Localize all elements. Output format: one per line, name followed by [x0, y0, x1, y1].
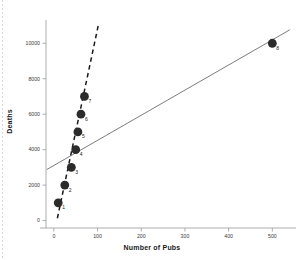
y-tick-label-8000: 8000 — [0, 76, 40, 82]
data-point-label-1: 1 — [62, 204, 65, 210]
data-point-label-6: 6 — [85, 116, 88, 122]
y-tick-label-10000: 10000 — [0, 40, 40, 46]
data-point-label-3: 3 — [75, 169, 78, 175]
data-point-label-4: 4 — [80, 151, 83, 157]
y-axis-title: Deaths — [6, 100, 13, 144]
y-tick-label-6000: 6000 — [0, 111, 40, 117]
x-tick-label-0: 0 — [40, 233, 68, 239]
data-point-label-2: 2 — [69, 187, 72, 193]
y-tick-label-0: 0 — [0, 217, 40, 223]
x-tick-label-200: 200 — [127, 233, 155, 239]
data-point-label-7: 7 — [88, 98, 91, 104]
x-tick-label-100: 100 — [84, 233, 112, 239]
x-tick-label-400: 400 — [215, 233, 243, 239]
y-tick-label-2000: 2000 — [0, 182, 40, 188]
y-tick-label-4000: 4000 — [0, 146, 40, 152]
x-tick-label-500: 500 — [258, 233, 286, 239]
plot-canvas — [0, 0, 304, 260]
x-axis-title: Number of Pubs — [0, 244, 304, 251]
data-point-label-5: 5 — [82, 133, 85, 139]
data-point-label-8: 8 — [276, 45, 279, 51]
x-tick-label-300: 300 — [171, 233, 199, 239]
scatter-plot-figure: Number of Pubs Deaths 020004000600080001… — [0, 0, 304, 260]
